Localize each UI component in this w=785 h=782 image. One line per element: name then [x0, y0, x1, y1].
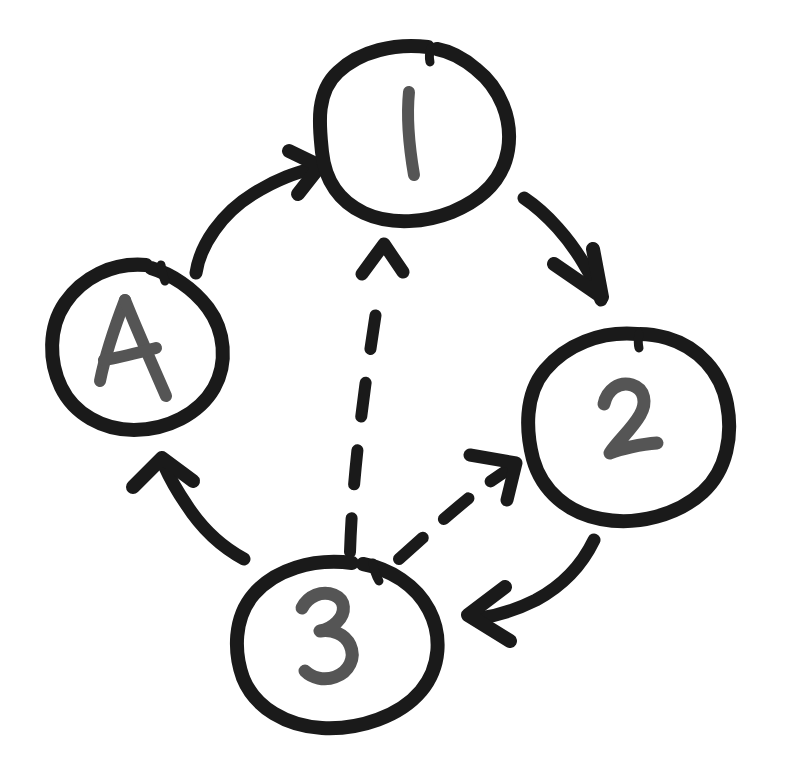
- edge-1-to-2[interactable]: [500, 192, 612, 310]
- diagram-canvas: 1 2 3 4: [0, 0, 785, 782]
- edge-2-to-3-hit[interactable]: [460, 532, 608, 650]
- edge-3-to-2-dashed[interactable]: [392, 448, 522, 578]
- node-3[interactable]: 3: [234, 551, 442, 729]
- edge-2-to-3[interactable]: [460, 532, 608, 650]
- node-2-hit[interactable]: [526, 332, 732, 520]
- edge-4-to-1-hit[interactable]: [190, 150, 325, 290]
- edge-3-to-1-hit[interactable]: [338, 240, 410, 560]
- edge-3-to-2-hit[interactable]: [392, 448, 522, 578]
- sketch-surface: 1 2 3 4: [0, 0, 785, 782]
- node-4[interactable]: 4: [51, 261, 227, 431]
- edge-3-to-4[interactable]: [128, 450, 260, 566]
- node-3-hit[interactable]: [234, 551, 442, 729]
- node-1[interactable]: 1: [320, 41, 510, 221]
- edge-3-to-1-dashed[interactable]: [338, 240, 410, 560]
- node-1-hit[interactable]: [320, 41, 510, 219]
- node-4-hit[interactable]: [51, 261, 227, 431]
- node-2[interactable]: 2: [526, 332, 732, 521]
- edge-4-to-1[interactable]: [190, 150, 325, 290]
